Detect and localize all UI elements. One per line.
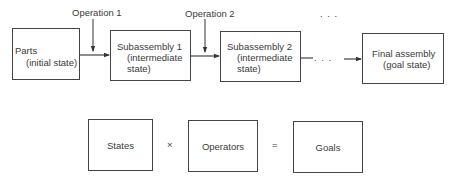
goals-box: Goals — [293, 121, 363, 173]
parts-title: Parts — [15, 45, 37, 56]
flow-ellipsis: . . . — [314, 52, 332, 63]
parts-subtitle: (initial state) — [26, 57, 77, 68]
subassembly-1-subtitle-line1: (intermediate — [127, 52, 182, 63]
times-symbol: × — [167, 139, 173, 150]
states-box: States — [88, 119, 153, 171]
subassembly-2-subtitle-line2: state) — [237, 63, 261, 74]
subassembly-1-subtitle-line2: state) — [127, 63, 151, 74]
subassembly-2-box: Subassembly 2 (intermediate state) — [220, 31, 301, 82]
equals-symbol: = — [272, 139, 278, 150]
parts-state-box: Parts (initial state) — [12, 28, 80, 80]
subassembly-2-title: Subassembly 2 — [227, 41, 292, 52]
operators-box: Operators — [188, 120, 258, 172]
subassembly-1-box: Subassembly 1 (intermediate state) — [110, 30, 191, 81]
top-ellipsis: . . . — [320, 8, 338, 19]
final-assembly-box: Final assembly (goal state) — [362, 33, 444, 84]
subassembly-2-subtitle-line1: (intermediate — [237, 52, 292, 63]
final-assembly-title: Final assembly — [372, 48, 435, 59]
operation-1-label: Operation 1 — [72, 7, 122, 18]
subassembly-1-title: Subassembly 1 — [117, 41, 182, 52]
operation-2-label: Operation 2 — [185, 8, 235, 19]
final-assembly-subtitle: (goal state) — [383, 59, 431, 70]
